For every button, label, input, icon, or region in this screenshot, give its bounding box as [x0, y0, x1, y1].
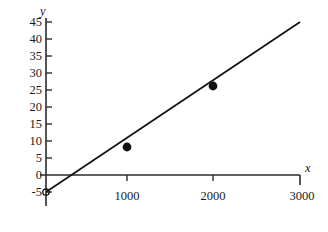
y-tick-label-45: 45 [14, 16, 42, 29]
x-axis-ticks [127, 175, 300, 185]
y-tick-label-20: 20 [14, 101, 42, 114]
y-tick-label-0: 0 [14, 169, 42, 182]
y-tick-label-5: 5 [14, 152, 42, 165]
y-tick-label-15: 15 [14, 118, 42, 131]
y-tick-label-minus5: -5 [10, 186, 42, 199]
regression-line [46, 22, 300, 192]
x-axis-label: x [305, 162, 311, 175]
y-axis-ticks [46, 22, 52, 192]
y-tick-label-40: 40 [14, 33, 42, 46]
data-points [43, 82, 218, 196]
data-point-1 [123, 143, 132, 152]
x-tick-label-3000: 3000 [290, 190, 315, 203]
plot-canvas [0, 0, 328, 232]
x-tick-label-2000: 2000 [201, 190, 226, 203]
data-point-2 [209, 82, 218, 91]
x-tick-label-1000: 1000 [115, 190, 140, 203]
y-axis-label: y [40, 5, 46, 18]
y-tick-label-35: 35 [14, 50, 42, 63]
scatter-plot-figure: 45 40 35 30 25 20 15 10 5 0 -5 1000 2000… [0, 0, 328, 232]
y-tick-label-25: 25 [14, 84, 42, 97]
y-tick-label-10: 10 [14, 135, 42, 148]
y-tick-label-30: 30 [14, 67, 42, 80]
